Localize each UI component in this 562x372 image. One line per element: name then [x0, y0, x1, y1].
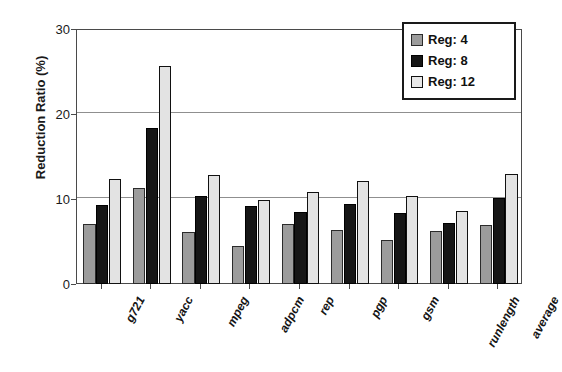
y-tick-mark	[71, 284, 76, 285]
bar	[245, 206, 257, 284]
x-tick-mark	[299, 284, 300, 289]
bar	[109, 179, 121, 284]
x-tick-label: gsm	[418, 294, 442, 322]
x-tick-label: runlength	[484, 294, 522, 349]
legend-label-reg4: Reg: 4	[428, 32, 468, 47]
x-tick-label: pgp	[367, 294, 390, 320]
bar	[133, 188, 145, 284]
bar	[430, 231, 442, 284]
bar	[456, 211, 468, 284]
y-tick-label: 30	[30, 22, 70, 37]
x-tick-label: average	[528, 294, 562, 341]
bar-group	[225, 29, 275, 284]
x-tick-mark	[249, 284, 250, 289]
bar	[394, 213, 406, 284]
legend-label-reg8: Reg: 8	[428, 53, 468, 68]
x-tick-mark	[200, 284, 201, 289]
bar	[344, 204, 356, 284]
legend: Reg: 4 Reg: 8 Reg: 12	[402, 22, 516, 100]
bar	[195, 196, 207, 284]
bar	[96, 205, 108, 284]
bar	[480, 225, 492, 284]
x-tick-label: yacc	[171, 294, 196, 324]
y-tick-label: 10	[30, 192, 70, 207]
bar	[331, 230, 343, 284]
legend-swatch-reg12	[411, 76, 423, 88]
bar	[159, 66, 171, 284]
x-tick-label: rep	[316, 294, 337, 317]
bar	[493, 198, 505, 284]
bar	[443, 223, 455, 284]
x-tick-label: adpcm	[277, 294, 308, 335]
bar	[406, 196, 418, 284]
legend-swatch-reg4	[411, 34, 423, 46]
bar-group	[274, 29, 324, 284]
bar	[307, 192, 319, 284]
y-tick-label: 20	[30, 107, 70, 122]
x-tick-mark	[448, 284, 449, 289]
bar	[381, 240, 393, 284]
bar	[282, 224, 294, 284]
bar-group	[126, 29, 176, 284]
legend-swatch-reg8	[411, 55, 423, 67]
legend-item[interactable]: Reg: 8	[411, 50, 508, 71]
bar	[83, 224, 95, 284]
bar	[182, 232, 194, 284]
x-tick-mark	[349, 284, 350, 289]
y-tick-label: 0	[30, 277, 70, 292]
bar	[146, 128, 158, 284]
x-tick-label: g721	[122, 294, 147, 325]
bar	[208, 175, 220, 284]
legend-label-reg12: Reg: 12	[428, 74, 475, 89]
x-tick-mark	[398, 284, 399, 289]
x-tick-mark	[101, 284, 102, 289]
legend-item[interactable]: Reg: 4	[411, 29, 508, 50]
x-tick-label: mpeg	[224, 294, 251, 329]
bar	[357, 181, 369, 284]
bar	[505, 174, 517, 284]
bar-group	[175, 29, 225, 284]
x-tick-mark	[150, 284, 151, 289]
bar	[232, 246, 244, 284]
x-tick-mark	[497, 284, 498, 289]
bar	[294, 212, 306, 284]
legend-item[interactable]: Reg: 12	[411, 71, 508, 92]
bar-group	[324, 29, 374, 284]
bar-group	[76, 29, 126, 284]
bar	[258, 200, 270, 284]
